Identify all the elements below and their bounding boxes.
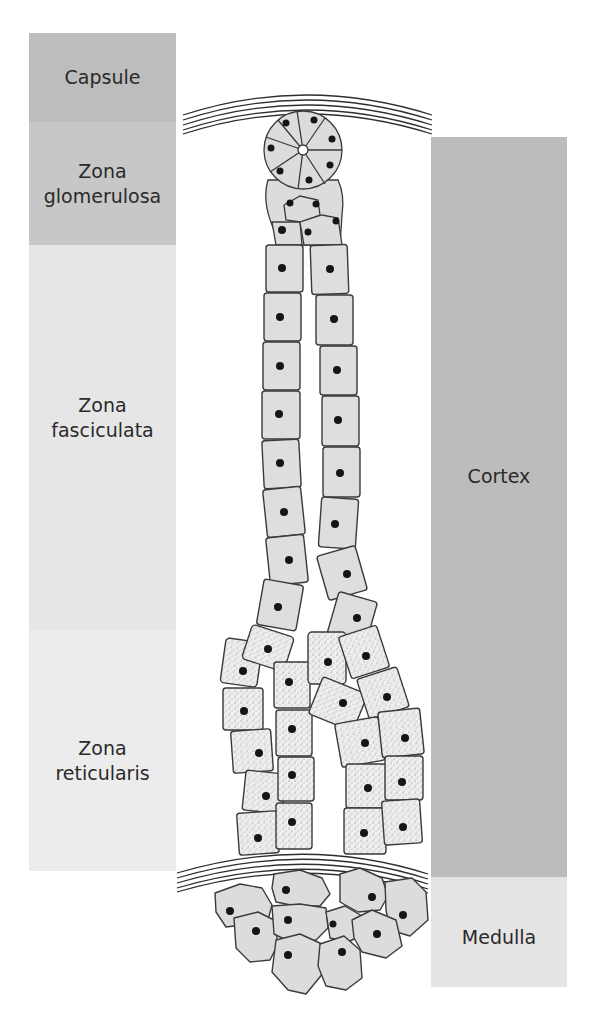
reticularis-cords — [220, 624, 424, 855]
fasciculata-cords — [256, 244, 377, 646]
adrenal-cell-illustration — [0, 0, 592, 1032]
glomerulosa-rosette — [264, 111, 343, 245]
medulla-chromaffin-cells — [215, 868, 428, 994]
